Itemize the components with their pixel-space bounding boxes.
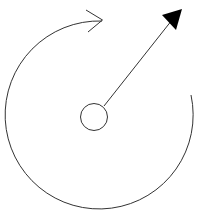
diagram-canvas: Rotation diagram pivot direction vector … <box>0 0 198 215</box>
filled-arrowhead-icon <box>162 9 182 30</box>
rotation-diagram <box>0 0 198 215</box>
center-circle <box>81 104 108 131</box>
vector-line <box>104 20 172 106</box>
